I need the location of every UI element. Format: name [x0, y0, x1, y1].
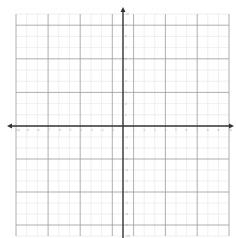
coordinate-plane: -10-9-8-7-6-5-4-3-2-112345678910-10-9-8-… — [0, 0, 236, 238]
x-tick-label: -10 — [15, 128, 20, 132]
x-tick-label: 3 — [154, 128, 156, 132]
y-tick-label: 5 — [125, 68, 127, 72]
x-tick-label: -4 — [79, 128, 82, 132]
x-tick-label: 10 — [228, 128, 232, 132]
y-tick-label: -9 — [125, 223, 128, 227]
x-tick-label: 4 — [164, 128, 166, 132]
y-tick-label: -10 — [125, 234, 130, 238]
x-tick-label: 1 — [133, 128, 135, 132]
y-axis-up-arrow-icon — [121, 7, 126, 12]
y-tick-label: 8 — [125, 34, 127, 38]
x-tick-label: -1 — [111, 128, 114, 132]
y-tick-label: 6 — [125, 57, 127, 61]
y-tick-label: 3 — [125, 90, 127, 94]
y-tick-label: -1 — [125, 135, 128, 139]
y-tick-label: 1 — [125, 113, 127, 117]
y-tick-label: -3 — [125, 157, 128, 161]
x-tick-label: -7 — [47, 128, 50, 132]
y-tick-label: 7 — [125, 46, 127, 50]
y-tick-label: 9 — [125, 23, 127, 27]
x-tick-label: 9 — [217, 128, 219, 132]
x-tick-label: 7 — [196, 128, 198, 132]
x-tick-label: 2 — [143, 128, 145, 132]
x-tick-label: -2 — [101, 128, 104, 132]
y-tick-label: 4 — [125, 79, 127, 83]
x-tick-label: 5 — [175, 128, 177, 132]
y-tick-label: -8 — [125, 212, 128, 216]
x-tick-label: 8 — [207, 128, 209, 132]
y-tick-label: 10 — [125, 12, 129, 16]
y-tick-label: -2 — [125, 146, 128, 150]
x-axis-left-arrow-icon — [7, 124, 12, 129]
axes — [7, 7, 234, 238]
x-tick-label: -5 — [69, 128, 72, 132]
x-tick-label: -6 — [58, 128, 61, 132]
x-tick-label: -3 — [90, 128, 93, 132]
y-tick-label: -6 — [125, 190, 128, 194]
y-tick-label: 2 — [125, 102, 127, 106]
y-tick-label: -7 — [125, 201, 128, 205]
x-tick-label: -8 — [36, 128, 39, 132]
x-tick-label: -9 — [26, 128, 29, 132]
y-tick-label: -5 — [125, 179, 128, 183]
y-tick-label: -4 — [125, 168, 128, 172]
x-tick-label: 6 — [186, 128, 188, 132]
